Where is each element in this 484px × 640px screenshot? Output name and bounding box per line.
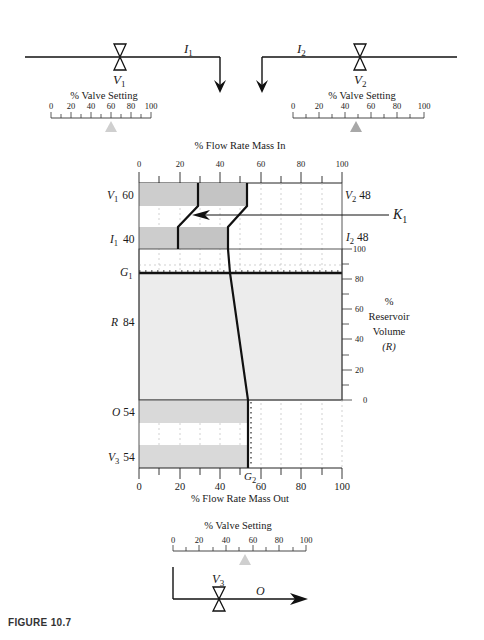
svg-text:20: 20 [355, 365, 364, 375]
svg-text:40: 40 [87, 101, 96, 111]
bar-o [139, 400, 249, 423]
v3-scale-title: % Valve Setting [204, 520, 272, 531]
bar-i2 [178, 227, 228, 249]
svg-text:0: 0 [291, 101, 295, 111]
valve-v1-label: V1 [113, 72, 125, 89]
svg-text:20: 20 [195, 535, 204, 545]
inlet2-label: I2 [296, 41, 306, 58]
svg-text:%: % [385, 296, 394, 307]
bar-v1 [139, 183, 198, 206]
svg-text:80: 80 [296, 481, 307, 492]
svg-text:20: 20 [176, 159, 185, 169]
svg-text:100: 100 [145, 101, 158, 111]
bar-i1 [139, 227, 178, 249]
reservoir-axis: 100 80 60 40 20 0 % Reservoir Volume (R) [342, 244, 410, 405]
svg-text:0: 0 [363, 395, 367, 405]
svg-text:100: 100 [334, 481, 350, 492]
process-diagram: I1 V1 % Valve Setting 0 20 40 60 80 100 [0, 0, 484, 640]
svg-text:40: 40 [222, 535, 231, 545]
v2-scale-title: % Valve Setting [328, 90, 396, 101]
svg-text:80: 80 [355, 274, 364, 284]
reservoir-fill [139, 274, 342, 400]
inlet1-label: I1 [183, 41, 193, 58]
svg-text:Volume: Volume [373, 326, 406, 337]
svg-text:0: 0 [171, 535, 175, 545]
figure-caption: FIGURE 10.7 [8, 617, 71, 628]
svg-text:60: 60 [107, 101, 116, 111]
g1-goal-line [139, 271, 342, 273]
top-axis-title: % Flow Rate Mass In [195, 140, 287, 151]
valve-v2-label: V2 [354, 72, 366, 89]
row-label-r: R84 [110, 316, 135, 328]
svg-text:60: 60 [355, 304, 364, 314]
k1-label: K1 [392, 207, 407, 225]
row-label-o: O54 [112, 406, 135, 418]
svg-text:100: 100 [300, 535, 313, 545]
svg-text:100: 100 [353, 244, 366, 254]
v1-scale[interactable]: 0 20 40 60 80 100 [49, 101, 158, 132]
v1-setting-marker-icon[interactable] [105, 121, 117, 132]
k1-indicator [192, 210, 389, 220]
svg-text:20: 20 [67, 101, 76, 111]
bar-v2 [198, 183, 247, 206]
svg-text:60: 60 [257, 159, 266, 169]
inlet1-pipe [25, 57, 226, 93]
svg-text:20: 20 [315, 101, 324, 111]
svg-text:80: 80 [127, 101, 136, 111]
svg-text:Reservoir: Reservoir [369, 311, 410, 322]
v3-scale[interactable]: 0 20 40 60 80 100 [171, 535, 313, 565]
row-label-v2: V248 [345, 189, 371, 204]
svg-text:60: 60 [256, 481, 267, 492]
outlet-pipe [173, 567, 308, 605]
svg-text:0: 0 [49, 101, 53, 111]
valve-v3-label: V3 [212, 572, 225, 588]
svg-text:(R): (R) [382, 341, 396, 353]
svg-text:0: 0 [136, 481, 141, 492]
v2-setting-marker-icon[interactable] [350, 121, 362, 132]
svg-text:60: 60 [249, 535, 258, 545]
svg-text:40: 40 [341, 101, 350, 111]
g1-label: G1 [120, 266, 133, 281]
svg-text:80: 80 [275, 535, 284, 545]
bottom-axis-title: % Flow Rate Mass Out [191, 493, 289, 504]
svg-text:40: 40 [355, 334, 364, 344]
svg-text:40: 40 [215, 481, 226, 492]
v3-setting-marker-icon[interactable] [239, 554, 251, 565]
row-label-v1: V160 [107, 189, 134, 204]
row-label-i1: I140 [109, 233, 135, 248]
svg-text:0: 0 [137, 159, 141, 169]
svg-text:40: 40 [216, 159, 225, 169]
outlet-label: O [256, 584, 265, 598]
svg-text:80: 80 [393, 101, 402, 111]
v1-scale-title: % Valve Setting [70, 90, 138, 101]
svg-text:60: 60 [367, 101, 376, 111]
v2-scale[interactable]: 0 20 40 60 80 100 [291, 101, 431, 132]
bar-v3 [139, 445, 249, 468]
row-label-v3: V354 [108, 451, 135, 466]
svg-text:80: 80 [297, 159, 306, 169]
top-axis: 0 20 40 60 80 100 [137, 159, 349, 183]
svg-text:20: 20 [175, 481, 186, 492]
svg-text:100: 100 [418, 101, 431, 111]
svg-text:100: 100 [336, 159, 349, 169]
